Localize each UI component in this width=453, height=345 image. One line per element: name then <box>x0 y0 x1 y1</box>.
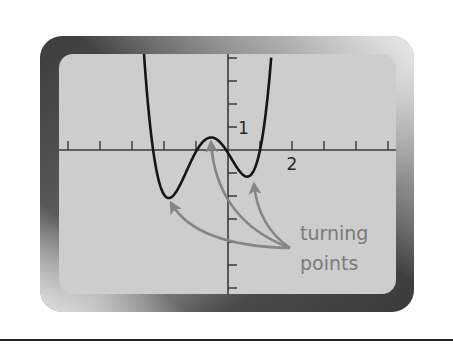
annotation-line-points: points <box>300 252 358 274</box>
graph-svg: 2 1 turning points <box>0 0 453 345</box>
bottom-rule-divider <box>0 339 453 341</box>
x-tick-label-2: 2 <box>287 154 298 174</box>
calculator-graph-figure: 2 1 turning points <box>0 0 453 345</box>
y-tick-label-1: 1 <box>238 118 249 138</box>
annotation-line-turning: turning <box>300 222 368 244</box>
